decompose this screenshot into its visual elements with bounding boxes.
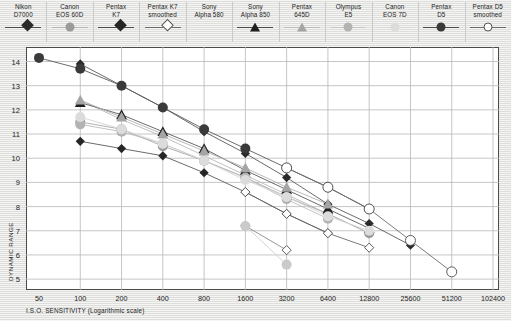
x-axis-tick-label: 800 bbox=[198, 294, 210, 303]
x-axis-tick-label: 51200 bbox=[442, 294, 462, 303]
y-axis-title: DYNAMIC RANGE bbox=[7, 222, 14, 282]
x-axis-tick-label: 102400 bbox=[481, 294, 505, 303]
chart-canvas bbox=[26, 47, 499, 290]
legend-marker-icon bbox=[328, 21, 368, 33]
x-axis-tick-label: 25600 bbox=[400, 294, 420, 303]
y-axis-tick-label: 10 bbox=[4, 154, 20, 163]
chart-legend: Nikon D7000Canon EOS 60DPentax K7Pentax … bbox=[0, 0, 511, 44]
y-axis-tick-label: 9 bbox=[4, 178, 20, 187]
chart-page: Nikon D7000Canon EOS 60DPentax K7Pentax … bbox=[0, 0, 511, 321]
legend-item[interactable]: Pentax 645D bbox=[279, 0, 325, 44]
legend-marker-icon bbox=[96, 21, 136, 33]
legend-item-label: Nikon D7000 bbox=[14, 3, 33, 18]
legend-item-label: Canon EOS 7D bbox=[383, 3, 407, 18]
y-axis-tick-label: 13 bbox=[4, 81, 20, 90]
x-axis-tick-label: 200 bbox=[116, 294, 128, 303]
y-axis-tick-label: 12 bbox=[4, 105, 20, 114]
y-axis-tick-label: 8 bbox=[4, 202, 20, 211]
data-markers bbox=[75, 112, 374, 236]
data-series bbox=[245, 226, 286, 250]
data-series bbox=[245, 226, 286, 265]
legend-item-label: Pentax K7 bbox=[106, 3, 126, 18]
legend-marker-icon bbox=[3, 21, 43, 33]
legend-item[interactable]: Pentax K7 smoothed bbox=[139, 0, 185, 44]
x-axis-tick-label: 6400 bbox=[320, 294, 336, 303]
legend-marker-icon bbox=[375, 21, 415, 33]
legend-item[interactable]: Sony Alpha 580 bbox=[186, 0, 232, 44]
x-axis-tick-label: 50 bbox=[35, 294, 43, 303]
legend-marker-icon bbox=[235, 21, 275, 33]
y-axis-tick-label: 14 bbox=[4, 57, 20, 66]
legend-marker-icon bbox=[282, 21, 322, 33]
x-axis-tick-label: 12800 bbox=[359, 294, 379, 303]
legend-item-label: Olympus E5 bbox=[336, 3, 362, 18]
legend-item-label: Pentax K7 smoothed bbox=[148, 3, 178, 18]
legend-item-label: Canon EOS 60D bbox=[56, 3, 83, 18]
x-axis-tick-label: 400 bbox=[157, 294, 169, 303]
legend-item-label: Pentax D5 bbox=[431, 3, 451, 18]
x-axis-title: I.S.O. SENSITIVITY (Logarithmic scale) bbox=[26, 307, 145, 314]
legend-item-label: Sony Alpha 580 bbox=[194, 3, 223, 18]
legend-item-label: Pentax 645D bbox=[292, 3, 312, 18]
legend-item[interactable]: Pentax D5 smoothed bbox=[465, 0, 511, 44]
legend-marker-icon bbox=[50, 21, 90, 33]
x-axis-tick-label: 1600 bbox=[237, 294, 253, 303]
x-axis-tick-label: 100 bbox=[74, 294, 86, 303]
legend-marker-icon bbox=[189, 21, 229, 33]
legend-marker-icon bbox=[421, 21, 461, 33]
x-axis-tick-label: 3200 bbox=[279, 294, 295, 303]
plot-area bbox=[26, 47, 499, 290]
legend-item-label: Pentax D5 smoothed bbox=[473, 3, 503, 18]
legend-marker-icon bbox=[143, 21, 183, 33]
y-axis-tick-label: 11 bbox=[4, 130, 20, 139]
legend-marker-icon bbox=[468, 21, 508, 33]
legend-item[interactable]: Canon EOS 7D bbox=[372, 0, 418, 44]
legend-item[interactable]: Canon EOS 60D bbox=[46, 0, 92, 44]
legend-item[interactable]: Pentax K7 bbox=[93, 0, 139, 44]
legend-item[interactable]: Sony Alpha 850 bbox=[232, 0, 278, 44]
legend-item[interactable]: Nikon D7000 bbox=[0, 0, 46, 44]
legend-item-label: Sony Alpha 850 bbox=[241, 3, 270, 18]
legend-item[interactable]: Pentax D5 bbox=[418, 0, 464, 44]
legend-item[interactable]: Olympus E5 bbox=[325, 0, 371, 44]
